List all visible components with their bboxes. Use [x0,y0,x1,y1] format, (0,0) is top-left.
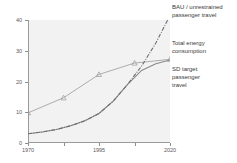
chart-curves [28,20,170,143]
x-tick-label-1970: 1970 [16,147,40,153]
x-tick-mark-minor-1 [64,143,65,146]
legend-label-total-energy-consumption: Total energy consumption [172,39,237,55]
x-tick-label-1995: 1995 [87,147,111,153]
x-tick-mark-2020 [170,143,171,146]
y-tick-label-30: 30 [6,48,22,54]
chart-figure: 40 30 20 10 0 1970 1995 2020 BAU / unres… [0,0,237,163]
x-tick-mark-minor-2 [135,143,136,146]
series-markers-total-energy-consumption [28,57,170,115]
x-tick-label-2020: 2020 [158,147,182,153]
y-tick-label-20: 20 [6,79,22,85]
series-group [28,20,170,134]
x-tick-mark-1970 [28,143,29,146]
y-tick-label-0: 0 [6,140,22,146]
legend-label-bau-unrestrained-passenger-travel: BAU / unrestrained passenger travel [172,3,237,19]
legend-label-sd-target-passenger-travel: SD target passenger travel [172,65,237,90]
series-line-sd-target-passenger-travel [28,60,170,134]
x-tick-mark-1995 [99,143,100,146]
y-tick-label-10: 10 [6,109,22,115]
series-line-bau-unrestrained-passenger-travel [28,20,170,134]
y-tick-label-40: 40 [6,17,22,23]
